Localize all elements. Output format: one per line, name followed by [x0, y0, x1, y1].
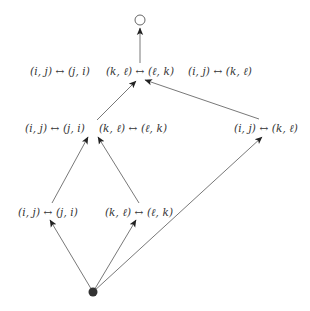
- edge-arrow-3: [52, 137, 88, 203]
- edge-arrow-4: [98, 137, 139, 203]
- edge-arrow-2: [145, 80, 259, 119]
- bottom-row-node-ij-ji: (i, j) ↔ (j, i): [18, 206, 78, 218]
- top-row-node-kl-lk: (k, ℓ) ↔ (ℓ, k): [106, 65, 174, 77]
- diagram-edges: [0, 0, 310, 311]
- top-row-node-ij-ji: (i, j) ↔ (j, i): [30, 65, 90, 77]
- bottom-row-node-kl-lk: (k, ℓ) ↔ (ℓ, k): [105, 206, 173, 218]
- bottom-node-filled-circle: [89, 288, 98, 297]
- middle-row-node-ij-ji: (i, j) ↔ (j, i): [25, 122, 85, 134]
- top-row-node-ij-kl: (i, j) ↔ (k, ℓ): [188, 65, 252, 77]
- edge-arrow-5: [50, 220, 93, 292]
- top-node-hollow-circle: [135, 15, 145, 25]
- middle-row-node-kl-lk: (k, ℓ) ↔ (ℓ, k): [99, 122, 167, 134]
- edge-arrow-1: [97, 81, 136, 120]
- middle-row-node-ij-kl: (i, j) ↔ (k, ℓ): [234, 122, 298, 134]
- hasse-diagram: (i, j) ↔ (j, i) (k, ℓ) ↔ (ℓ, k) (i, j) ↔…: [0, 0, 310, 311]
- edge-arrow-6: [93, 220, 136, 292]
